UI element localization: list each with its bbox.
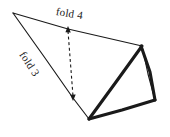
origami-fold-figure: fold 4 fold 3	[0, 0, 170, 137]
